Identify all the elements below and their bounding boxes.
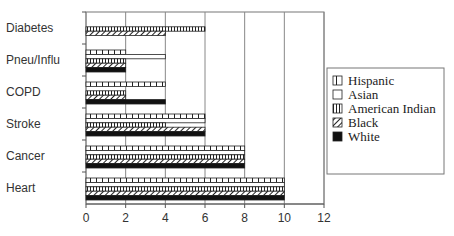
category-label: Heart — [6, 181, 36, 195]
x-tick-label: 10 — [278, 211, 292, 225]
x-tick-label: 0 — [83, 211, 90, 225]
category-label: Stroke — [6, 117, 41, 131]
bar — [86, 178, 284, 182]
legend-label: Asian — [348, 87, 379, 102]
bar — [86, 54, 165, 58]
legend-swatch — [333, 104, 342, 113]
legend-label: Black — [348, 115, 379, 130]
legend-label: Hispanic — [348, 73, 394, 88]
bar — [86, 50, 126, 54]
plot-area — [86, 12, 324, 204]
x-tick-label: 12 — [317, 211, 331, 225]
bar — [86, 187, 284, 191]
bar — [86, 68, 126, 72]
bar — [86, 164, 245, 168]
category-labels: DiabetesPneu/InfluCOPDStrokeCancerHeart — [6, 21, 60, 195]
category-label: Diabetes — [6, 21, 53, 35]
bar — [86, 159, 245, 163]
x-tick-label: 2 — [122, 211, 129, 225]
legend-swatch — [333, 76, 342, 85]
bar — [86, 91, 126, 95]
bar — [86, 127, 205, 131]
bars — [86, 27, 284, 200]
bar — [86, 114, 205, 118]
x-tick-label: 8 — [241, 211, 248, 225]
bar — [86, 59, 126, 63]
bar — [86, 63, 126, 67]
bar — [86, 196, 284, 200]
legend-swatch — [333, 132, 342, 141]
x-tick-label: 6 — [202, 211, 209, 225]
legend: HispanicAsianAmerican IndianBlackWhite — [327, 68, 444, 174]
legend-label: American Indian — [348, 101, 436, 116]
bar — [86, 155, 245, 159]
x-tick-label: 4 — [162, 211, 169, 225]
legend-swatch — [333, 90, 342, 99]
bar — [86, 191, 284, 195]
bar — [86, 27, 205, 31]
legend-swatch — [333, 118, 342, 127]
bar — [86, 100, 165, 104]
category-label: COPD — [6, 85, 41, 99]
category-label: Pneu/Influ — [6, 53, 60, 67]
bar — [86, 132, 205, 136]
bar — [86, 146, 245, 150]
bar — [86, 118, 205, 122]
bar — [86, 31, 165, 35]
bar — [86, 82, 165, 86]
bar — [86, 123, 165, 127]
bar — [86, 182, 284, 186]
category-label: Cancer — [6, 149, 45, 163]
bar — [86, 150, 245, 154]
bar-chart: DiabetesPneu/InfluCOPDStrokeCancerHeart … — [0, 0, 454, 236]
bar — [86, 95, 126, 99]
legend-label: White — [348, 129, 380, 144]
